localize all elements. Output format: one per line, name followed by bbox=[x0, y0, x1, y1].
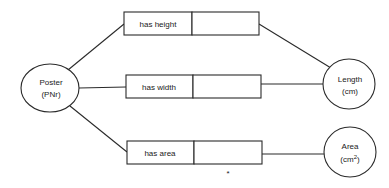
entity-length-unit: (cm) bbox=[342, 87, 358, 96]
entity-area-ellipse bbox=[324, 127, 376, 177]
relation-has-height-role-2 bbox=[192, 12, 259, 35]
entity-poster-ellipse bbox=[21, 64, 79, 112]
edge-has-height-length bbox=[259, 24, 331, 68]
relation-has-width-label: has width bbox=[142, 83, 176, 92]
entity-poster-name: Poster bbox=[39, 78, 62, 87]
entity-poster-unit: (PNr) bbox=[41, 90, 60, 99]
relation-has-area[interactable]: has area bbox=[127, 141, 262, 164]
relation-has-height[interactable]: has height bbox=[124, 12, 259, 35]
relation-has-height-label: has height bbox=[140, 20, 178, 29]
relation-has-area-role-2 bbox=[194, 141, 262, 164]
entity-area-name: Area bbox=[342, 142, 359, 151]
edge-poster-has-width bbox=[79, 87, 126, 88]
entity-area-unit-prefix: (cm bbox=[340, 155, 354, 164]
entity-poster[interactable]: Poster (PNr) bbox=[21, 64, 79, 112]
entity-area[interactable]: Area (cm2) bbox=[324, 127, 376, 177]
entity-area-unit: (cm2) bbox=[340, 154, 360, 164]
entity-length-ellipse bbox=[323, 59, 375, 109]
entity-length[interactable]: Length (cm) bbox=[323, 59, 375, 109]
relation-has-area-label: has area bbox=[144, 149, 176, 158]
orm-diagram: Poster (PNr) has height has width has ar… bbox=[0, 0, 389, 188]
entity-length-name: Length bbox=[338, 75, 362, 84]
edge-poster-has-area bbox=[70, 106, 127, 152]
uniqueness-annotation: * bbox=[226, 169, 229, 178]
edge-poster-has-height bbox=[68, 24, 124, 70]
entity-area-unit-suffix: ) bbox=[357, 155, 360, 164]
relation-has-width[interactable]: has width bbox=[126, 75, 261, 98]
relation-has-width-role-2 bbox=[193, 75, 261, 98]
